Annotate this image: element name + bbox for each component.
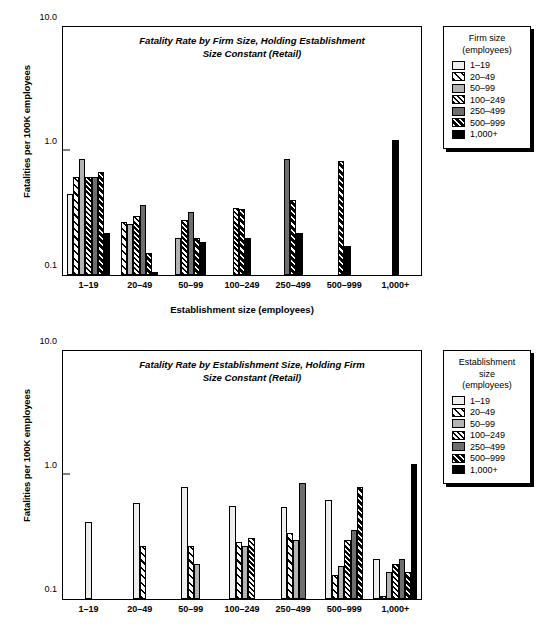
bar-50-99 — [194, 564, 200, 599]
legend-bottom: Establishment size (employees) 1–1920–49… — [443, 350, 531, 484]
bar-250-499 — [299, 483, 305, 599]
legend-bottom-title-line1: Establishment — [452, 357, 522, 369]
legend-bottom-title: Establishment size (employees) — [452, 357, 522, 392]
bar-group — [216, 351, 267, 599]
legend-item[interactable]: 500–999 — [452, 118, 522, 128]
legend-item[interactable]: 100–249 — [452, 430, 522, 440]
legend-swatch-icon — [452, 419, 465, 428]
x-tick-label: 1–19 — [79, 280, 99, 290]
x-tick-label: 250–499 — [276, 604, 311, 614]
y-tick-label: 0.1 — [44, 584, 57, 594]
x-tick-label: 100–249 — [224, 280, 259, 290]
legend-swatch-icon — [452, 95, 465, 104]
y-axis-title-bottom: Fatalities per 100K employees — [21, 356, 32, 556]
legend-bottom-title-line3: (employees) — [452, 380, 522, 392]
legend-top-title: Firm size (employees) — [452, 33, 522, 56]
x-tick-label: 250–499 — [276, 280, 311, 290]
legend-item-label: 50–99 — [470, 83, 495, 93]
x-tick-label: 1,000+ — [382, 280, 410, 290]
legend-item[interactable]: 1,000+ — [452, 129, 522, 139]
legend-item[interactable]: 50–99 — [452, 419, 522, 429]
bar-1-000- — [104, 233, 110, 275]
bar-group — [370, 27, 421, 275]
x-tick-label: 50–99 — [178, 604, 203, 614]
bar-group — [165, 351, 216, 599]
bar-group — [63, 351, 114, 599]
bar-group — [216, 27, 267, 275]
y-tick-mark — [63, 150, 70, 151]
legend-item[interactable]: 20–49 — [452, 407, 522, 417]
legend-item[interactable]: 50–99 — [452, 83, 522, 93]
legend-bottom-title-line2: size — [452, 369, 522, 381]
bar-group — [370, 351, 421, 599]
legend-bottom-items: 1–1920–4950–99100–249250–499500–9991,000… — [452, 396, 522, 475]
y-axis-title-top: Fatalities per 100K employees — [21, 32, 32, 232]
legend-swatch-icon — [452, 130, 465, 139]
legend-item-label: 1,000+ — [470, 129, 498, 139]
legend-swatch-icon — [452, 454, 465, 463]
legend-swatch-icon — [452, 61, 465, 70]
legend-item-label: 250–499 — [470, 106, 505, 116]
legend-item-label: 100–249 — [470, 430, 505, 440]
legend-top-title-line1: Firm size — [452, 33, 522, 45]
bar-20-49 — [140, 546, 146, 599]
bar-1-000- — [200, 242, 206, 275]
legend-swatch-icon — [452, 118, 465, 127]
chart-panel-top: Fatalities per 100K employees Fatality R… — [0, 8, 540, 313]
legend-item[interactable]: 100–249 — [452, 95, 522, 105]
legend-swatch-icon — [452, 84, 465, 93]
y-tick-label: 1.0 — [44, 136, 57, 146]
y-tick-label: 10.0 — [39, 12, 57, 22]
legend-swatch-icon — [452, 72, 465, 81]
legend-swatch-icon — [452, 107, 465, 116]
legend-swatch-icon — [452, 431, 465, 440]
x-axis-title-top: Establishment size (employees) — [62, 304, 422, 315]
bar-1-000- — [245, 238, 251, 275]
bar-1-000- — [344, 246, 350, 275]
x-tick-label: 1–19 — [79, 604, 99, 614]
figure-root: Fatalities per 100K employees Fatality R… — [0, 0, 540, 635]
bars-container-top — [63, 27, 421, 275]
bar-500-999 — [357, 487, 363, 599]
legend-item-label: 20–49 — [470, 407, 495, 417]
legend-item-label: 1–19 — [470, 60, 490, 70]
legend-swatch-icon — [452, 442, 465, 451]
y-tick-label: 1.0 — [44, 460, 57, 470]
legend-item-label: 1–19 — [470, 396, 490, 406]
bar-group — [319, 351, 370, 599]
legend-item[interactable]: 1–19 — [452, 60, 522, 70]
x-tick-label: 500–999 — [327, 280, 362, 290]
bar-group — [165, 27, 216, 275]
bar-group — [319, 27, 370, 275]
legend-swatch-icon — [452, 465, 465, 474]
x-tick-label: 100–249 — [224, 604, 259, 614]
legend-item[interactable]: 1–19 — [452, 396, 522, 406]
bar-1-000- — [296, 233, 302, 275]
legend-item[interactable]: 250–499 — [452, 442, 522, 452]
legend-item[interactable]: 250–499 — [452, 106, 522, 116]
legend-top-title-line2: (employees) — [452, 45, 522, 57]
legend-item[interactable]: 1,000+ — [452, 465, 522, 475]
legend-item-label: 250–499 — [470, 442, 505, 452]
legend-item-label: 50–99 — [470, 419, 495, 429]
x-tick-label: 20–49 — [127, 604, 152, 614]
y-tick-label: 0.1 — [44, 260, 57, 270]
bar-1-000- — [411, 464, 417, 599]
bar-group — [268, 27, 319, 275]
legend-top-items: 1–1920–4950–99100–249250–499500–9991,000… — [452, 60, 522, 139]
x-tick-label: 20–49 — [127, 280, 152, 290]
x-tick-label: 500–999 — [327, 604, 362, 614]
legend-item[interactable]: 20–49 — [452, 72, 522, 82]
bar-group — [63, 27, 114, 275]
bar-100-249 — [248, 538, 254, 599]
y-tick-label: 10.0 — [39, 336, 57, 346]
bar-1-19 — [85, 522, 91, 599]
legend-item-label: 1,000+ — [470, 465, 498, 475]
bars-container-bottom — [63, 351, 421, 599]
y-tick-mark — [63, 474, 70, 475]
bar-1-000- — [152, 272, 158, 275]
legend-item[interactable]: 500–999 — [452, 453, 522, 463]
legend-top: Firm size (employees) 1–1920–4950–99100–… — [443, 26, 531, 149]
legend-item-label: 500–999 — [470, 118, 505, 128]
legend-item-label: 100–249 — [470, 95, 505, 105]
